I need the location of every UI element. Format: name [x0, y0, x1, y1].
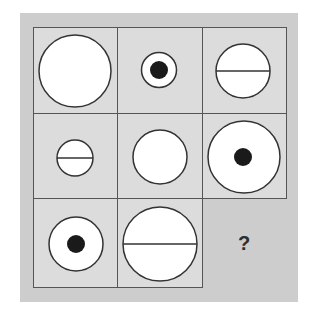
- large-circle-icon: [39, 35, 111, 107]
- medium-circle-dot-icon: [49, 217, 103, 271]
- small-circle-line-icon: [57, 140, 93, 176]
- missing-answer-question-mark: ?: [234, 233, 254, 253]
- medium-circle-line-icon: [216, 44, 270, 98]
- medium-circle-icon: [133, 130, 187, 184]
- large-circle-dot-icon: [208, 121, 280, 193]
- large-circle-line-icon: [123, 207, 197, 281]
- shapes-layer: [0, 0, 313, 311]
- small-circle-dot-icon: [142, 53, 177, 88]
